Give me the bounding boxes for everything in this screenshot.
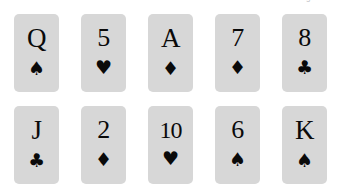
playing-card[interactable]: A ♦ [148, 14, 193, 92]
spade-icon: ♠ [296, 151, 313, 170]
playing-card[interactable]: Q ♠ [14, 14, 59, 92]
playing-card[interactable]: J ♣ [14, 106, 59, 184]
playing-card[interactable]: 2 ♦ [81, 106, 126, 184]
card-rank: 6 [231, 117, 244, 143]
club-icon: ♣ [296, 58, 313, 77]
card-row: Q ♠ 5 ♥ A ♦ 7 ♦ 8 ♣ [0, 14, 348, 92]
diamond-icon: ♦ [95, 150, 112, 169]
club-icon: ♣ [28, 151, 45, 170]
card-rank: 5 [97, 25, 110, 51]
card-rank: Q [27, 25, 46, 52]
playing-card[interactable]: 5 ♥ [81, 14, 126, 92]
card-rank: 8 [298, 25, 311, 51]
card-rank: K [295, 117, 314, 144]
card-row: J ♣ 2 ♦ 10 ♥ 6 ♠ K ♠ [0, 106, 348, 184]
card-rank: J [31, 117, 41, 144]
card-rank: 10 [160, 118, 182, 142]
heart-icon: ♥ [162, 149, 179, 168]
playing-card[interactable]: 7 ♦ [215, 14, 260, 92]
diamond-icon: ♦ [229, 58, 246, 77]
playing-card[interactable]: 8 ♣ [282, 14, 327, 92]
diamond-icon: ♦ [162, 59, 179, 78]
card-grid: Q ♠ 5 ♥ A ♦ 7 ♦ 8 ♣ J ♣ 2 ♦ 10 [0, 0, 348, 193]
card-rank: A [161, 25, 180, 52]
spade-icon: ♠ [229, 150, 246, 169]
playing-card[interactable]: 6 ♠ [215, 106, 260, 184]
card-rank: 2 [97, 117, 110, 143]
card-rank: 7 [231, 25, 244, 51]
spade-icon: ♠ [28, 59, 45, 78]
playing-card[interactable]: 10 ♥ [148, 106, 193, 184]
playing-card[interactable]: K ♠ [282, 106, 327, 184]
heart-icon: ♥ [95, 58, 112, 77]
